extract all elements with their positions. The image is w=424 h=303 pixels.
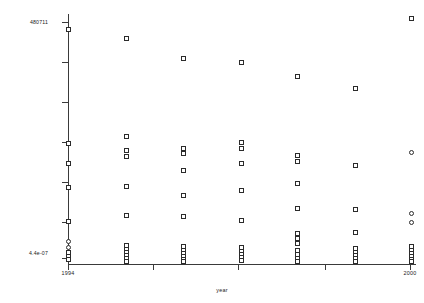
data-point-marker — [295, 206, 300, 211]
data-point-marker — [295, 241, 300, 246]
data-point-marker — [239, 161, 244, 166]
data-point-marker — [295, 259, 300, 264]
data-point-marker — [181, 259, 186, 264]
data-point-marker — [66, 161, 71, 166]
x-axis-left-label: 1994 — [48, 270, 88, 276]
data-point-marker — [239, 140, 244, 145]
data-point-marker — [239, 60, 244, 65]
data-point-marker — [124, 213, 129, 218]
data-point-marker — [124, 184, 129, 189]
data-point-marker — [353, 207, 358, 212]
x-axis-tick — [325, 264, 326, 270]
data-point-marker — [353, 86, 358, 91]
data-point-marker — [124, 134, 129, 139]
data-point-marker — [239, 146, 244, 151]
data-point-marker — [66, 257, 71, 262]
data-point-marker — [295, 74, 300, 79]
y-axis-tick — [62, 102, 68, 103]
data-point-marker — [353, 230, 358, 235]
x-axis-tick — [238, 264, 239, 270]
data-point-marker — [66, 185, 71, 190]
data-point-marker — [409, 220, 414, 225]
data-point-marker — [66, 141, 71, 146]
data-point-marker — [66, 239, 71, 244]
data-point-marker — [124, 148, 129, 153]
x-axis-tick — [153, 264, 154, 270]
x-axis-right-label: 2000 — [390, 270, 424, 276]
data-point-marker — [353, 163, 358, 168]
x-axis-title: year — [202, 287, 242, 293]
data-point-marker — [409, 150, 414, 155]
data-point-marker — [239, 218, 244, 223]
data-point-marker — [409, 16, 414, 21]
data-point-marker — [124, 36, 129, 41]
y-axis-tick — [62, 22, 68, 23]
data-point-marker — [181, 56, 186, 61]
data-point-marker — [409, 259, 414, 264]
data-point-marker — [181, 214, 186, 219]
data-point-marker — [124, 154, 129, 159]
data-point-marker — [239, 188, 244, 193]
y-axis-tick — [62, 62, 68, 63]
data-point-marker — [353, 259, 358, 264]
data-point-marker — [66, 27, 71, 32]
data-point-marker — [181, 193, 186, 198]
data-point-marker — [66, 219, 71, 224]
data-point-marker — [181, 168, 186, 173]
y-axis-bottom-label: 4.4e-07 — [6, 250, 48, 256]
y-axis-top-label: 480711 — [8, 19, 48, 25]
scatter-plot-figure: 480711 4.4e-07 1994 2000 year — [0, 0, 424, 303]
y-axis-tick — [62, 182, 68, 183]
data-point-marker — [124, 259, 129, 264]
x-axis-line — [68, 264, 416, 265]
data-point-marker — [409, 211, 414, 216]
y-axis-line — [68, 14, 69, 264]
data-point-marker — [181, 151, 186, 156]
data-point-marker — [295, 181, 300, 186]
data-point-marker — [239, 258, 244, 263]
data-point-marker — [295, 153, 300, 158]
data-point-marker — [295, 159, 300, 164]
